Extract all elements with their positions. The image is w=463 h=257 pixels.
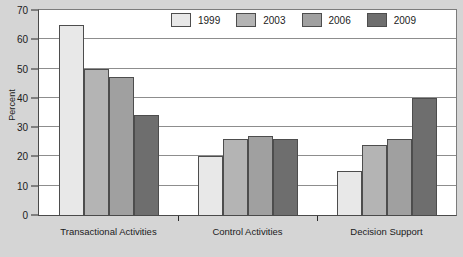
x-axis-labels: Transactional ActivitiesControl Activiti… — [38, 226, 457, 242]
y-axis-tick-label: 50 — [17, 63, 28, 74]
y-axis-tick-mark — [31, 10, 38, 11]
y-axis-tick-mark — [31, 97, 38, 98]
bar — [109, 77, 134, 215]
bar — [273, 139, 298, 215]
legend: 1999200320062009 — [171, 13, 416, 27]
legend-swatch — [171, 13, 191, 27]
legend-item[interactable]: 1999 — [171, 13, 220, 27]
y-axis-tick-mark — [31, 127, 38, 128]
bar — [412, 98, 437, 215]
legend-label: 2006 — [329, 15, 351, 26]
x-axis-label: Control Activities — [212, 226, 282, 237]
bar-group — [337, 10, 437, 215]
legend-item[interactable]: 2009 — [367, 13, 416, 27]
legend-swatch — [236, 13, 256, 27]
bar-group — [59, 10, 159, 215]
bar — [387, 139, 412, 215]
bar — [362, 145, 387, 215]
y-axis-ticks: 010203040506070 — [0, 9, 38, 216]
bar-group — [198, 10, 298, 215]
y-axis-tick-mark — [31, 156, 38, 157]
legend-label: 2003 — [263, 15, 285, 26]
y-axis-tick-label: 60 — [17, 34, 28, 45]
legend-label: 2009 — [394, 15, 416, 26]
x-axis-tick-mark — [178, 216, 179, 221]
bar — [223, 139, 248, 215]
bar — [337, 171, 362, 215]
x-axis-label: Decision Support — [350, 226, 422, 237]
x-axis-tick-mark — [317, 216, 318, 221]
x-axis-label: Transactional Activities — [60, 226, 156, 237]
plot-area — [38, 9, 457, 216]
y-axis-tick-mark — [31, 68, 38, 69]
y-axis-tick-label: 20 — [17, 151, 28, 162]
y-axis-tick-mark — [31, 215, 38, 216]
y-axis-tick-label: 40 — [17, 92, 28, 103]
legend-item[interactable]: 2006 — [302, 13, 351, 27]
bar — [198, 156, 223, 215]
y-axis-tick-label: 0 — [22, 210, 28, 221]
bar-chart: Percent 010203040506070 Transactional Ac… — [0, 0, 463, 257]
legend-swatch — [302, 13, 322, 27]
legend-item[interactable]: 2003 — [236, 13, 285, 27]
legend-label: 1999 — [198, 15, 220, 26]
bar — [84, 69, 109, 215]
x-axis-ticks — [38, 216, 457, 222]
y-axis-tick-mark — [31, 185, 38, 186]
y-axis-tick-label: 70 — [17, 5, 28, 16]
bar — [59, 25, 84, 215]
y-axis-tick-label: 30 — [17, 122, 28, 133]
y-axis-tick-mark — [31, 39, 38, 40]
y-axis-tick-label: 10 — [17, 180, 28, 191]
bar — [134, 115, 159, 215]
bars-layer — [39, 10, 456, 215]
bar — [248, 136, 273, 215]
legend-swatch — [367, 13, 387, 27]
